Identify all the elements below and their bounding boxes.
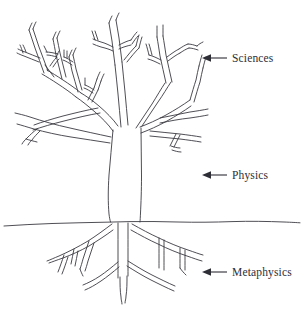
roots [47,223,203,304]
tree-drawing [0,0,302,309]
twigs-right [146,25,208,152]
annotation-label-metaphysics: Metaphysics [232,265,292,279]
annotation-physics: Physics [202,168,268,182]
twigs-left [17,22,104,102]
annotation-label-sciences: Sciences [232,51,273,65]
annotation-label-physics: Physics [232,168,268,182]
tree-of-knowledge-figure: Sciences Physics Metaphysics [0,0,302,309]
trunk [108,128,141,222]
branch-left-low [15,113,111,145]
branches-main [42,62,191,133]
annotation-metaphysics: Metaphysics [202,265,292,279]
annotation-sciences: Sciences [202,51,273,65]
twigs-center [92,13,142,65]
left-arrow-icon [202,266,227,278]
ground-line [4,221,300,226]
branch-left-mid [33,108,100,130]
left-arrow-icon [202,169,227,181]
left-arrow-icon [202,52,227,64]
